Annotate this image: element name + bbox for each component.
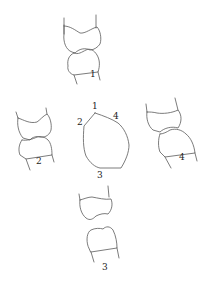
center-outline — [83, 113, 129, 168]
view-3-label: 3 — [102, 263, 108, 272]
vertex-label-3: 3 — [97, 171, 103, 180]
vertex-label-2: 2 — [77, 118, 83, 127]
tooth-view-2 — [16, 108, 54, 170]
view-4-label: 4 — [179, 153, 185, 162]
view-2-label: 2 — [36, 157, 42, 166]
tooth-view-3 — [79, 186, 119, 262]
vertex-label-4: 4 — [113, 112, 119, 121]
diagram-canvas: 1 2 3 4 1 2 3 4 — [0, 0, 215, 287]
view-1-label: 1 — [90, 70, 96, 79]
vertex-label-1: 1 — [92, 102, 98, 111]
diagram-svg — [0, 0, 215, 287]
tooth-view-4 — [146, 98, 197, 168]
